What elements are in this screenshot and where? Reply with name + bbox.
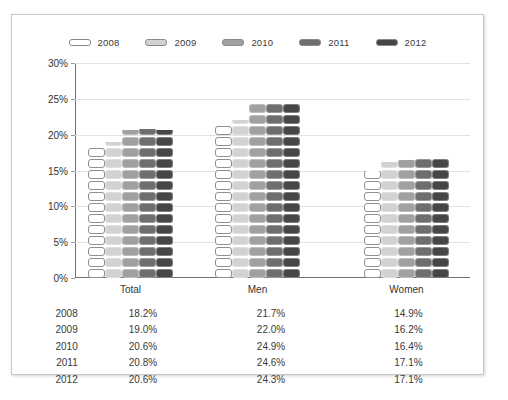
table-cell-total: 20.6% [78, 341, 209, 352]
bar-segment [432, 192, 449, 201]
bar-total-2008[interactable] [88, 148, 105, 278]
y-axis-tick-label: 10% [48, 201, 68, 212]
bar-segment [364, 203, 381, 212]
plot-area: 30%25%20%15%10%5%0%TotalMenWomen [75, 63, 470, 278]
bar-men-2008[interactable] [215, 122, 232, 278]
table-cell-men: 22.0% [208, 324, 334, 335]
bar-segment [266, 247, 283, 256]
bar-segment [232, 225, 249, 234]
bar-segment [266, 258, 283, 267]
bar-segment [215, 269, 232, 278]
bar-men-2009[interactable] [232, 120, 249, 278]
bar-women-2008[interactable] [364, 171, 381, 278]
bar-segment [266, 181, 283, 190]
table-cell-total: 19.0% [78, 324, 209, 335]
bar-segment [122, 203, 139, 212]
data-table: 200818.2%21.7%14.9%200919.0%22.0%16.2%20… [12, 305, 483, 388]
x-axis-category-label: Women [364, 284, 449, 295]
bar-segment [364, 181, 381, 190]
table-cell-year: 2009 [12, 324, 78, 335]
bar-segment [432, 214, 449, 223]
bar-segment [381, 181, 398, 190]
bar-total-2011[interactable] [139, 129, 156, 278]
legend-item-2008[interactable]: 2008 [69, 37, 120, 48]
bar-segment [249, 192, 266, 201]
bar-segment [283, 258, 300, 267]
bar-segment [381, 192, 398, 201]
bar-segment [266, 203, 283, 212]
bar-segment [122, 148, 139, 157]
bar-segment [249, 181, 266, 190]
bar-total-2010[interactable] [122, 130, 139, 278]
bar-segment [415, 236, 432, 245]
bar-segment [88, 258, 105, 267]
bar-segment [249, 258, 266, 267]
bar-segment [105, 142, 122, 146]
bar-segment [215, 203, 232, 212]
bar-segment [122, 192, 139, 201]
y-axis-tick-label: 15% [48, 165, 68, 176]
table-cell-men: 24.3% [208, 374, 334, 385]
bar-group-women: Women [364, 63, 449, 278]
bar-segment [139, 148, 156, 157]
bar-women-2009[interactable] [381, 162, 398, 278]
bar-segment [398, 236, 415, 245]
bar-men-2011[interactable] [266, 102, 283, 278]
bar-segment [364, 171, 381, 179]
legend-swatch-2008 [69, 39, 91, 46]
bar-segment [364, 269, 381, 278]
bar-segment [266, 225, 283, 234]
bar-women-2011[interactable] [415, 155, 432, 278]
bar-segment [249, 115, 266, 124]
x-axis-category-label: Men [215, 284, 300, 295]
bar-segment [432, 247, 449, 256]
legend-item-2009[interactable]: 2009 [145, 37, 196, 48]
bar-segment [415, 170, 432, 179]
bar-men-2010[interactable] [249, 100, 266, 278]
bar-segment [415, 159, 432, 168]
bar-segment [139, 159, 156, 168]
bar-segment [415, 203, 432, 212]
bar-segment [283, 214, 300, 223]
legend-item-2012[interactable]: 2012 [376, 37, 427, 48]
bar-segment [415, 181, 432, 190]
bar-segment [364, 247, 381, 256]
bar-segment [156, 130, 173, 135]
table-cell-year: 2008 [12, 308, 78, 319]
bar-segment [381, 236, 398, 245]
bar-segment [105, 258, 122, 267]
bar-segment [105, 269, 122, 278]
table-row: 201020.6%24.9%16.4% [12, 338, 483, 355]
legend-label: 2010 [251, 37, 273, 48]
bar-segment [249, 203, 266, 212]
bar-segment [156, 203, 173, 212]
bar-segment [139, 192, 156, 201]
bar-men-2012[interactable] [283, 104, 300, 278]
bar-segment [283, 247, 300, 256]
bar-segment [105, 159, 122, 168]
bar-segment [215, 170, 232, 179]
bar-total-2009[interactable] [105, 142, 122, 278]
bar-segment [139, 214, 156, 223]
bar-women-2010[interactable] [398, 160, 415, 278]
table-cell-women: 17.1% [334, 357, 483, 368]
bar-women-2012[interactable] [432, 155, 449, 278]
bar-segment [283, 181, 300, 190]
legend-item-2011[interactable]: 2011 [299, 37, 349, 48]
bar-segment [139, 137, 156, 146]
y-axis-tick-label: 0% [54, 273, 68, 284]
bar-segment [232, 181, 249, 190]
bar-segment [88, 225, 105, 234]
table-cell-total: 20.8% [78, 357, 209, 368]
y-axis-tick-label: 25% [48, 93, 68, 104]
bar-segment [249, 236, 266, 245]
bar-segment [266, 148, 283, 157]
bar-segment [156, 269, 173, 278]
bar-segment [432, 269, 449, 278]
bar-segment [156, 181, 173, 190]
bar-total-2012[interactable] [156, 130, 173, 278]
legend-item-2010[interactable]: 2010 [222, 37, 273, 48]
bar-segment [381, 162, 398, 168]
bar-segment [432, 225, 449, 234]
bar-segment [364, 258, 381, 267]
